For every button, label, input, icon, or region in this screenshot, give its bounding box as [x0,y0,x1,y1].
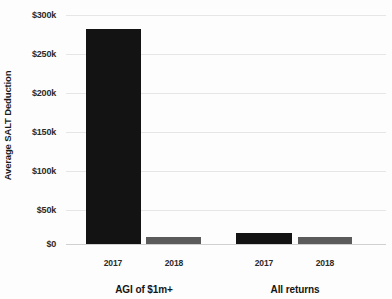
x-tick-label-agi-2018: 2018 [165,258,184,268]
group-label-agi-1m: AGI of $1m+ [115,284,173,295]
y-axis-title-text: Average SALT Deduction [3,70,14,180]
x-tick-label-all-2018: 2018 [316,258,335,268]
x-tick-label-agi-2017: 2017 [104,258,123,268]
gridline-zero-baseline [66,244,386,245]
y-tick-label-50k: $50k [0,205,56,215]
y-tick-label-200k: $200k [0,88,56,98]
x-tick-label-all-2017: 2017 [255,258,274,268]
bar-all-returns-2017[interactable] [236,233,292,244]
gridline-300k [66,15,386,16]
group-label-all-returns: All returns [271,284,320,295]
bar-agi-1m-2018[interactable] [146,237,201,244]
y-tick-label-250k: $250k [0,49,56,59]
y-tick-label-100k: $100k [0,166,56,176]
y-tick-label-0: $0 [0,239,56,249]
bar-agi-1m-2017[interactable] [86,29,141,244]
bar-chart: Average SALT Deduction $300k $250k $200k… [0,0,392,299]
bar-all-returns-2018[interactable] [298,237,352,244]
y-tick-label-300k: $300k [0,10,56,20]
y-tick-label-150k: $150k [0,127,56,137]
plot-area: $300k $250k $200k $150k $100k $50k $0 20… [66,8,386,245]
